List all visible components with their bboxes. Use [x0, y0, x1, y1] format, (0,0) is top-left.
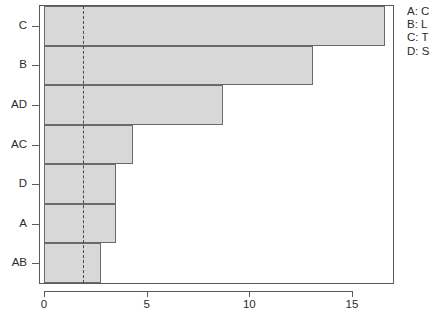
bars-layer: [44, 6, 393, 283]
pareto-chart: CBADACDAAB 051015 A: CB: LC: TD: S: [0, 0, 440, 316]
bar-ad: [44, 85, 223, 125]
x-tick: [249, 291, 250, 297]
y-axis-label-ab: AB: [0, 257, 27, 269]
x-axis-label-15: 15: [346, 299, 359, 311]
bar-a: [44, 204, 116, 244]
legend-entry: C: T: [407, 31, 440, 44]
y-axis-label-ad: AD: [0, 99, 27, 111]
x-axis-label-0: 0: [41, 299, 47, 311]
bar-ac: [44, 125, 133, 165]
y-axis-label-ac: AC: [0, 139, 27, 151]
y-tick: [32, 184, 39, 185]
y-tick: [32, 105, 39, 106]
bar-b: [44, 46, 313, 86]
bar-c: [44, 6, 385, 46]
y-axis-label-a: A: [0, 218, 27, 230]
legend-entry: B: L: [407, 18, 440, 31]
legend-entry: D: S: [407, 45, 440, 58]
y-tick: [32, 263, 39, 264]
legend: A: CB: LC: TD: S: [407, 5, 440, 58]
bar-ab: [44, 243, 101, 283]
legend-entry: A: C: [407, 5, 440, 18]
y-axis-label-c: C: [0, 20, 27, 32]
y-tick: [32, 26, 39, 27]
y-tick: [32, 65, 39, 66]
x-tick: [44, 291, 45, 297]
x-axis-line: [44, 291, 352, 292]
y-axis-label-d: D: [0, 178, 27, 190]
y-tick: [32, 145, 39, 146]
y-tick: [32, 224, 39, 225]
x-axis-label-5: 5: [143, 299, 149, 311]
x-tick: [147, 291, 148, 297]
y-axis-label-b: B: [0, 59, 27, 71]
x-tick: [352, 291, 353, 297]
bar-d: [44, 164, 116, 204]
x-axis-label-10: 10: [243, 299, 256, 311]
significance-threshold-line: [83, 6, 84, 283]
